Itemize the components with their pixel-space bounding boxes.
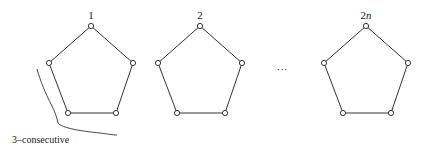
vertex-lower-right [222,110,227,115]
vertex-upper-right [239,60,244,65]
vertex-upper-left [46,60,51,65]
edge [158,63,177,113]
vertex-upper-left [321,60,326,65]
vertex-lower-left [65,110,70,115]
graph-label: 2n [361,9,373,21]
edge [116,63,133,113]
edge [49,26,91,63]
vertex-top [197,23,202,28]
edge [391,63,408,113]
vertex-lower-left [340,110,345,115]
pentagon-graph-2: 2 [155,9,244,116]
brace-3-consecutive [37,69,117,135]
edge [158,26,200,63]
edge [225,63,242,113]
pentagon-graph-1: 1 [46,9,135,116]
pentagon-graph-3: 2n [321,9,410,116]
vertex-upper-left [155,60,160,65]
graph-label: 2 [197,9,203,21]
edge [324,26,366,63]
pentagon-sequence-diagram: 122n ··· 3–consecutive [0,0,430,149]
vertex-lower-right [113,110,118,115]
vertex-lower-left [174,110,179,115]
vertex-top [363,23,368,28]
edge [366,26,408,63]
graph-label: 1 [88,9,94,21]
vertex-upper-right [130,60,135,65]
ellipsis: ··· [277,63,288,75]
edge [324,63,343,113]
vertex-lower-right [388,110,393,115]
edge [200,26,242,63]
vertex-top [88,23,93,28]
edge [91,26,133,63]
vertex-upper-right [405,60,410,65]
annotation-3-consecutive: 3–consecutive [12,134,70,145]
